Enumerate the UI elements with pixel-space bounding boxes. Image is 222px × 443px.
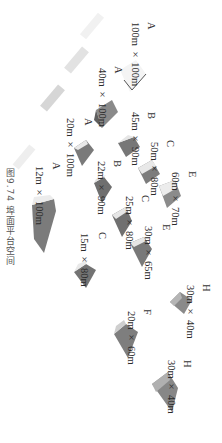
size-label: 20m × 100m xyxy=(65,118,76,177)
size-label: 30m × 65m xyxy=(143,226,154,280)
stripe-decoration xyxy=(80,13,104,40)
type-label: B xyxy=(146,112,157,119)
type-label: F xyxy=(142,309,153,315)
type-label: A xyxy=(83,118,94,126)
size-label: 100m × 100m xyxy=(130,22,141,86)
stripe-decoration xyxy=(13,144,36,169)
type-label: C xyxy=(97,232,108,239)
size-label: 12m × 100m xyxy=(34,166,45,225)
stripe-decoration xyxy=(64,46,89,73)
type-label: A xyxy=(51,162,62,170)
figure-caption: 图9.74 埠面平台空间 xyxy=(4,168,17,266)
type-label: H xyxy=(182,360,193,368)
type-label: H xyxy=(201,284,212,292)
stripe-decoration xyxy=(40,84,65,111)
size-label: 22m × 90m xyxy=(96,161,107,215)
size-label: 30m × 40m xyxy=(166,360,177,414)
type-label: A xyxy=(146,22,157,30)
size-label: 25m × 80m xyxy=(124,196,135,250)
size-label: 15m × 80m xyxy=(79,233,90,287)
type-label: A xyxy=(113,66,124,74)
size-label: 60m × 70m xyxy=(170,172,181,226)
size-label: 30m × 40m xyxy=(185,285,196,339)
size-label: 20m × 60m xyxy=(126,311,137,365)
type-label: C xyxy=(140,195,151,202)
type-label: B xyxy=(112,160,123,167)
diagram-canvas: A A A A B B C C C E E F H H 100m × 100m … xyxy=(0,0,222,443)
type-label: C xyxy=(165,140,176,147)
size-label: 50m × 80m xyxy=(149,142,160,196)
type-label: E xyxy=(187,171,198,177)
size-label: 40m × 100m xyxy=(97,68,108,127)
size-label: 45m × 90m xyxy=(130,112,141,166)
